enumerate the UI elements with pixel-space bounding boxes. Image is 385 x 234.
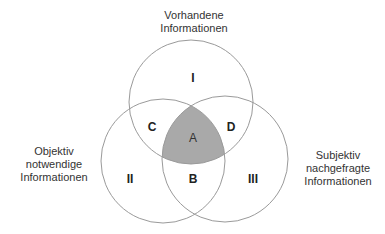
- venn-circles: [0, 0, 385, 234]
- region-label-ii: II: [127, 172, 134, 186]
- region-label-a: A: [189, 131, 197, 145]
- region-label-i: I: [191, 71, 194, 85]
- caption-line: Vorhandene: [154, 9, 234, 22]
- caption-line: Informationen: [297, 175, 379, 188]
- region-label-b: B: [189, 172, 198, 186]
- caption-line: Informationen: [154, 22, 234, 35]
- caption-line: notwendige: [14, 158, 94, 171]
- caption-line: Objektiv: [14, 145, 94, 158]
- caption-line: nachgefragte: [297, 162, 379, 175]
- caption-line: Subjektiv: [297, 149, 379, 162]
- caption-line: Informationen: [14, 171, 94, 184]
- region-label-d: D: [227, 120, 236, 134]
- region-label-c: C: [148, 120, 157, 134]
- venn-diagram: Vorhandene Informationen Objektiv notwen…: [0, 0, 385, 234]
- caption-subjektiv: Subjektiv nachgefragte Informationen: [297, 149, 379, 188]
- region-label-iii: III: [248, 172, 258, 186]
- caption-objektiv: Objektiv notwendige Informationen: [14, 145, 94, 184]
- caption-vorhandene: Vorhandene Informationen: [154, 9, 234, 35]
